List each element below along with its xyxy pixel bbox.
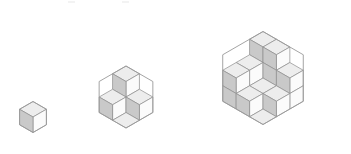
hexagon-side-3 <box>223 32 304 125</box>
hexagon-side-1 <box>20 102 47 133</box>
top-speck-right <box>122 1 129 3</box>
top-speck-left <box>68 1 75 3</box>
hexagon-side-2 <box>99 66 153 128</box>
hexagon-tiling-figure <box>0 0 351 154</box>
